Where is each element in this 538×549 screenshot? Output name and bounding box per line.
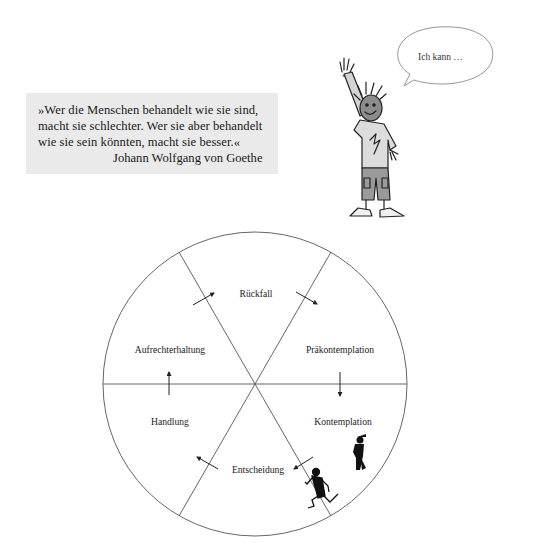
stage-label-praekontemplation: Präkontemplation	[306, 344, 374, 355]
stage-label-handlung: Handlung	[151, 416, 189, 427]
arrow-to-entscheidung	[294, 457, 313, 469]
stage-label-kontemplation: Kontemplation	[314, 416, 372, 427]
running-figure-icon	[305, 469, 338, 509]
stage-label-aufrechterhaltung: Aufrechterhaltung	[135, 344, 205, 355]
stage-label-rueckfall: Rückfall	[239, 288, 272, 299]
stage-label-entscheidung: Entscheidung	[232, 464, 284, 475]
standing-figure-icon	[353, 434, 366, 470]
